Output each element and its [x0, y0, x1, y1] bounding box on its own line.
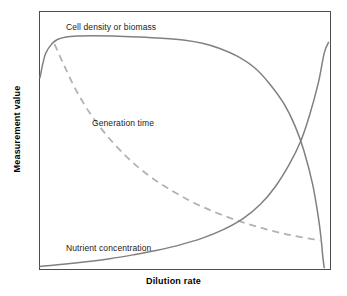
- plot-frame: [40, 12, 331, 270]
- chart-figure: Cell density or biomass Generation time …: [0, 0, 347, 296]
- chart-plot-area: [0, 0, 347, 296]
- curve-label-biomass: Cell density or biomass: [66, 22, 156, 32]
- y-axis-title: Measurement value: [12, 59, 22, 199]
- curve-label-nutrient-concentration: Nutrient concentration: [66, 243, 151, 253]
- curve-label-generation-time: Generation time: [92, 118, 154, 128]
- x-axis-title: Dilution rate: [0, 276, 347, 286]
